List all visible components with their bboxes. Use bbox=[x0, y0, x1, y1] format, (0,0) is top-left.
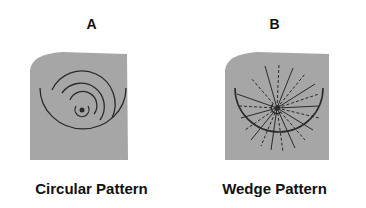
caption: Circular Pattern bbox=[0, 180, 183, 197]
circular-pattern-figure bbox=[22, 48, 142, 166]
panel-label: A bbox=[0, 16, 183, 32]
wedge-pattern-figure bbox=[221, 48, 341, 166]
panel-label: B bbox=[183, 16, 366, 32]
panel-a: A Circular Pattern bbox=[0, 0, 183, 208]
caption: Wedge Pattern bbox=[183, 180, 366, 197]
panel-b: B Wedge Pattern bbox=[183, 0, 366, 208]
